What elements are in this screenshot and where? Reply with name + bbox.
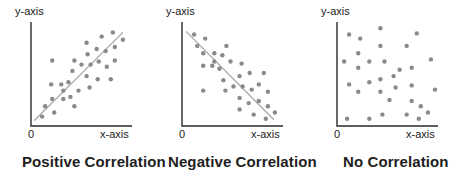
origin-label: 0 xyxy=(334,128,340,140)
data-point xyxy=(410,83,414,87)
data-point xyxy=(237,74,241,78)
x-axis-label: x-axis xyxy=(251,128,280,140)
data-point xyxy=(237,107,241,111)
data-point xyxy=(70,69,74,73)
title-positive-correlation: Positive Correlation xyxy=(22,153,166,170)
data-point xyxy=(203,36,207,40)
data-point xyxy=(95,47,99,51)
data-point xyxy=(387,98,391,102)
data-point xyxy=(247,101,251,105)
data-point xyxy=(273,110,277,114)
data-point xyxy=(262,71,266,75)
data-point xyxy=(250,87,254,91)
data-point xyxy=(378,44,382,48)
data-point xyxy=(367,80,371,84)
data-point xyxy=(85,52,89,56)
data-point xyxy=(61,97,65,101)
data-point xyxy=(415,31,419,35)
data-point xyxy=(380,112,384,116)
data-point xyxy=(429,57,433,61)
data-point xyxy=(52,110,56,114)
data-point xyxy=(97,59,101,63)
data-point xyxy=(367,117,371,121)
data-point xyxy=(223,88,227,92)
data-point xyxy=(72,104,76,108)
data-point xyxy=(66,80,70,84)
y-axis-label: y-axis xyxy=(321,5,350,17)
data-point xyxy=(252,112,256,116)
data-point xyxy=(217,67,221,71)
data-point xyxy=(356,66,360,70)
data-point xyxy=(367,59,371,63)
data-point xyxy=(417,117,421,121)
data-point xyxy=(426,110,430,114)
data-point xyxy=(201,88,205,92)
data-point xyxy=(391,74,395,78)
data-point xyxy=(433,87,437,91)
data-point xyxy=(201,63,205,67)
data-point xyxy=(378,77,382,81)
data-point xyxy=(264,117,268,121)
trend-line xyxy=(34,32,123,120)
data-point xyxy=(382,59,386,63)
data-point xyxy=(410,99,414,103)
data-point xyxy=(49,82,53,86)
data-point xyxy=(257,99,261,103)
data-point xyxy=(212,51,216,55)
data-point xyxy=(88,62,92,66)
data-point xyxy=(84,41,88,45)
data-point xyxy=(50,97,54,101)
data-point xyxy=(195,44,199,48)
data-point xyxy=(419,104,423,108)
data-point xyxy=(240,84,244,88)
scatter-plot-none: y-axis 0 x-axis xyxy=(321,5,438,140)
data-point xyxy=(228,59,232,63)
data-point xyxy=(342,59,346,63)
data-point xyxy=(356,51,360,55)
data-point xyxy=(257,82,261,86)
data-point xyxy=(79,62,83,66)
data-point xyxy=(347,32,351,36)
data-point xyxy=(201,51,205,55)
data-point xyxy=(356,90,360,94)
data-point xyxy=(43,104,47,108)
x-axis-label: x-axis xyxy=(406,128,435,140)
y-axis-label: y-axis xyxy=(15,5,44,17)
data-point xyxy=(111,30,115,34)
data-point xyxy=(212,59,216,63)
data-point xyxy=(100,34,104,38)
data-point xyxy=(397,68,401,72)
data-point xyxy=(378,26,382,30)
data-point xyxy=(239,61,243,65)
data-point xyxy=(405,44,409,48)
data-point xyxy=(410,66,414,70)
axes-lines xyxy=(337,22,438,126)
data-point xyxy=(84,74,88,78)
data-point xyxy=(358,36,362,40)
data-point xyxy=(237,96,241,100)
y-axis-label: y-axis xyxy=(166,5,195,17)
data-point xyxy=(221,78,225,82)
data-point xyxy=(113,58,117,62)
data-point xyxy=(266,90,270,94)
axes-lines xyxy=(182,22,283,126)
data-point xyxy=(87,85,91,89)
data-point xyxy=(76,88,80,92)
data-point xyxy=(378,90,382,94)
trend-line xyxy=(186,31,274,119)
origin-label: 0 xyxy=(28,128,34,140)
scatter-plot-positive: y-axis 0 x-axis xyxy=(15,5,132,140)
data-point xyxy=(266,104,270,108)
data-point xyxy=(347,82,351,86)
data-point xyxy=(109,77,113,81)
data-point xyxy=(210,63,214,67)
data-point xyxy=(248,71,252,75)
data-point xyxy=(61,88,65,92)
data-point xyxy=(68,95,72,99)
title-negative-correlation: Negative Correlation xyxy=(168,153,317,170)
data-point xyxy=(121,38,125,42)
data-point xyxy=(345,117,349,121)
data-point xyxy=(393,85,397,89)
data-point xyxy=(224,44,228,48)
data-point xyxy=(105,65,109,69)
